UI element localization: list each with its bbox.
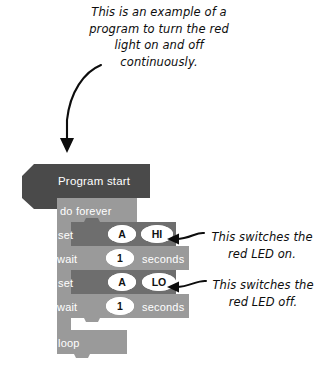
wait-unit-b: seconds — [142, 301, 184, 313]
loop-label: loop — [58, 337, 80, 349]
wait-keyword-a: wait — [57, 253, 77, 265]
left-arrow-icon — [166, 230, 206, 246]
set-keyword-hi: set — [58, 229, 73, 241]
wait-unit-a: seconds — [142, 253, 184, 265]
annotation-led-on: This switches the red LED on. — [204, 229, 320, 262]
wait-keyword-b: wait — [57, 301, 77, 313]
diagram-canvas: This is an example of a program to turn … — [0, 0, 320, 377]
wait-value-b[interactable]: 1 — [106, 297, 134, 315]
annotation-led-off: This switches the red LED off. — [206, 277, 320, 310]
set-keyword-lo: set — [58, 277, 73, 289]
curved-down-arrow-icon — [54, 58, 114, 163]
left-arrow-icon — [166, 278, 208, 294]
program-start-label: Program start — [58, 175, 130, 187]
set-slot-pin-hi[interactable]: A — [108, 225, 136, 243]
set-slot-pin-lo[interactable]: A — [108, 273, 136, 291]
do-forever-label: do forever — [60, 205, 112, 217]
wait-value-a[interactable]: 1 — [106, 249, 134, 267]
